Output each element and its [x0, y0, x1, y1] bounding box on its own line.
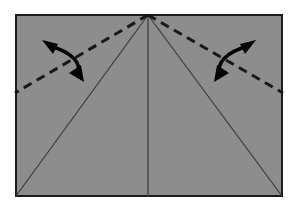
origami-figure-svg — [0, 0, 294, 215]
origami-diagram — [0, 0, 294, 215]
paper-sheet — [16, 15, 282, 196]
